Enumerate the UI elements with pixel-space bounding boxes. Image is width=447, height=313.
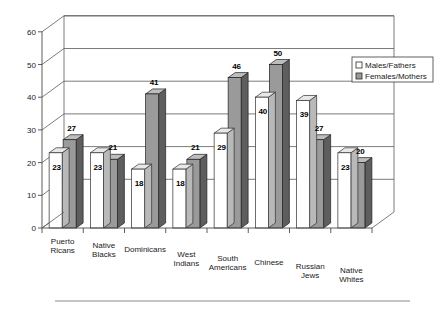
legend-swatch-dark [356,73,362,79]
legend-label-1: Females/Mothers [365,72,427,81]
value-label-males-0: 23 [52,163,61,172]
legend-label-0: Males/Fathers [365,61,416,70]
bar-chart-3d: 0102030405060 PuertoRicansNativeBlacksDo… [0,0,447,313]
legend-item-0[interactable]: Males/Fathers [356,61,416,70]
category-label-7: Whites [339,275,363,284]
value-label-females-6: 27 [315,124,324,133]
value-label-males-3: 18 [176,179,185,188]
y-tick-label: 50 [27,61,36,70]
value-label-females-2: 41 [150,78,159,87]
y-tick-label: 40 [27,93,36,102]
legend[interactable]: Males/FathersFemales/Mothers [352,57,433,82]
bar-Native Blacks-males [90,148,110,228]
category-label-2: Dominicans [124,245,166,254]
category-label-0: Puerto [51,237,75,246]
value-label-females-4: 46 [232,62,241,71]
y-tick-label: 60 [27,28,36,37]
value-label-males-2: 18 [135,179,144,188]
category-label-4: Americans [209,263,247,272]
chart-container: 0102030405060 PuertoRicansNativeBlacksDo… [0,0,447,313]
category-label-6: Jews [301,271,319,280]
value-label-males-1: 23 [93,163,102,172]
category-label-3: West [177,250,196,259]
y-tick-label: 0 [32,224,37,233]
value-label-females-3: 21 [191,143,200,152]
category-label-5: Chinese [254,258,284,267]
value-label-males-6: 39 [300,110,309,119]
value-label-males-7: 23 [341,163,350,172]
value-label-males-5: 40 [258,107,267,116]
legend-item-1[interactable]: Females/Mothers [356,72,427,81]
y-axis: 0102030405060 [27,28,42,233]
bar-Dominicans-males [132,164,152,228]
value-label-females-0: 27 [67,124,76,133]
category-label-0: Ricans [50,246,74,255]
y-tick-label: 30 [27,126,36,135]
category-label-6: Russian [296,262,325,271]
category-label-4: South [217,254,238,263]
value-label-females-5: 50 [273,49,282,58]
y-tick-label: 20 [27,159,36,168]
value-label-males-4: 29 [217,143,226,152]
bar-West Indians-males [173,164,193,228]
category-label-1: Blacks [92,250,116,259]
category-label-7: Native [340,266,363,275]
category-label-1: Native [93,241,116,250]
bar-Native Whites-males [338,148,358,228]
legend-swatch-light [356,62,362,68]
y-tick-label: 10 [27,191,36,200]
value-label-females-7: 20 [356,147,365,156]
category-labels: PuertoRicansNativeBlacksDominicansWestIn… [50,237,363,284]
category-label-3: Indians [173,259,199,268]
value-label-females-1: 21 [108,143,117,152]
bars-layer [49,60,372,229]
